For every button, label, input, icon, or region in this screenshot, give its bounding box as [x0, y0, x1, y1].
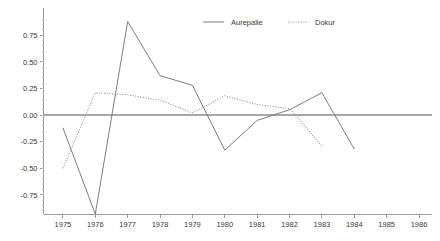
- y-tick-label: 0.50: [23, 58, 38, 67]
- chart-legend: AurepalleDokur: [203, 18, 336, 27]
- line-chart-plot: 0.750.500.250.00-0.25-0.50-0.75 19751976…: [0, 0, 440, 241]
- x-tick-label: 1981: [249, 220, 266, 229]
- y-tick-label: -0.25: [20, 137, 37, 146]
- chart-container: 0.750.500.250.00-0.25-0.50-0.75 19751976…: [0, 0, 440, 241]
- series-line-dokur: [63, 93, 322, 169]
- x-axis: 1975197619771978197919801981198219831984…: [44, 214, 433, 229]
- y-tick-label: 0.00: [23, 111, 38, 120]
- legend-label-dokur: Dokur: [315, 18, 336, 27]
- x-tick-label: 1983: [314, 220, 331, 229]
- x-tick-label: 1984: [346, 220, 363, 229]
- x-tick-label: 1979: [184, 220, 201, 229]
- x-tick-label: 1985: [378, 220, 395, 229]
- x-tick-label: 1978: [152, 220, 169, 229]
- series-lines: [63, 21, 354, 214]
- x-tick-label: 1975: [55, 220, 72, 229]
- series-line-aurepalle: [63, 21, 354, 214]
- y-tick-label: -0.50: [20, 164, 37, 173]
- y-tick-label: 0.25: [23, 84, 38, 93]
- y-tick-label: 0.75: [23, 31, 38, 40]
- legend-label-aurepalle: Aurepalle: [231, 18, 263, 27]
- x-tick-label: 1980: [216, 220, 233, 229]
- x-tick-label: 1976: [87, 220, 104, 229]
- x-tick-label: 1986: [411, 220, 428, 229]
- x-tick-label: 1982: [281, 220, 298, 229]
- y-tick-label: -0.75: [20, 191, 37, 200]
- x-tick-label: 1977: [119, 220, 136, 229]
- y-axis: 0.750.500.250.00-0.25-0.50-0.75: [20, 8, 43, 214]
